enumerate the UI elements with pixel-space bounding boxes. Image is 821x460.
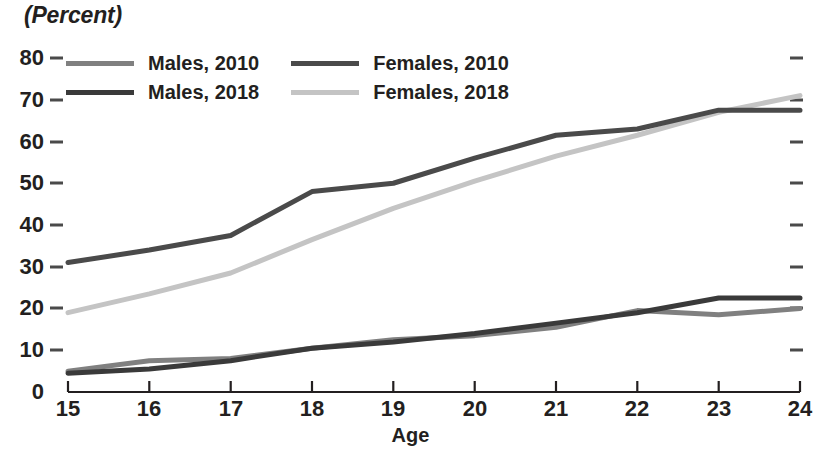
x-tick-label-16: 16: [119, 396, 179, 422]
x-tick-label-21: 21: [526, 396, 586, 422]
data-series-group: [68, 96, 800, 374]
x-tick-label-23: 23: [689, 396, 749, 422]
legend-swatch-males-2018: [66, 90, 134, 95]
legend-label-males-2018: Males, 2018: [148, 81, 277, 104]
x-tick-label-24: 24: [770, 396, 821, 422]
legend-swatch-females-2018: [291, 90, 359, 95]
x-tick-label-22: 22: [607, 396, 667, 422]
chart-legend: Males, 2010 Females, 2010 Males, 2018 Fe…: [66, 52, 527, 104]
series-line-females-2018: [68, 96, 800, 313]
series-line-females-2010: [68, 110, 800, 262]
x-tick-label-20: 20: [445, 396, 505, 422]
legend-label-females-2018: Females, 2018: [373, 81, 527, 104]
x-tick-label-15: 15: [38, 396, 98, 422]
x-tick-label-17: 17: [201, 396, 261, 422]
legend-swatch-males-2010: [66, 61, 134, 66]
x-axis-title: Age: [0, 424, 821, 447]
legend-label-females-2010: Females, 2010: [373, 52, 527, 75]
legend-label-males-2010: Males, 2010: [148, 52, 277, 75]
x-tick-label-18: 18: [282, 396, 342, 422]
legend-swatch-females-2010: [291, 61, 359, 66]
line-chart: (Percent) 80 70 60 50 40 30 20 10 0: [0, 0, 821, 460]
x-axis: [68, 381, 800, 392]
x-tick-label-19: 19: [363, 396, 423, 422]
